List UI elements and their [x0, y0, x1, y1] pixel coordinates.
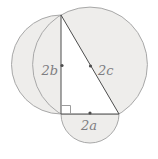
bottom-circle-center-dot	[88, 111, 91, 114]
geometry-figure: 2b 2c 2a	[0, 0, 158, 159]
figure-canvas: 2b 2c 2a	[0, 0, 158, 159]
left-circle-center-dot	[60, 64, 63, 67]
right-circle-center-dot	[89, 64, 92, 67]
label-2c: 2c	[97, 63, 114, 78]
label-2a: 2a	[80, 118, 97, 133]
label-2b: 2b	[40, 63, 58, 78]
